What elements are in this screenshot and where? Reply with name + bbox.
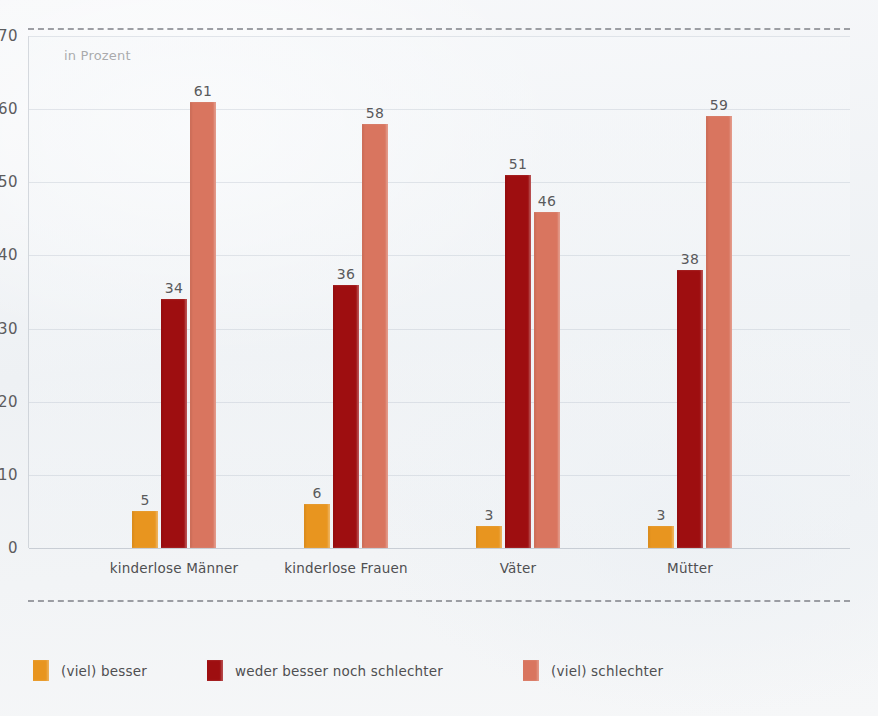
legend-item[interactable]: (viel) besser [33, 660, 147, 681]
bar-slot: 59 [706, 36, 732, 548]
bar-value-label: 5 [140, 492, 149, 508]
legend-swatch-icon [523, 660, 539, 681]
bar-value-label: 46 [538, 193, 556, 209]
legend-item[interactable]: weder besser noch schlechter [207, 660, 443, 681]
y-tick-label-30: 30 [0, 320, 18, 338]
category-label: Mütter [667, 560, 713, 576]
bar-slot: 46 [534, 36, 560, 548]
legend-swatch-icon [207, 660, 223, 681]
category-label: kinderlose Frauen [284, 560, 408, 576]
bar-value-label: 36 [337, 266, 355, 282]
bar-slot: 5 [132, 36, 158, 548]
bar-value-label: 51 [509, 156, 527, 172]
category-label: Väter [500, 560, 537, 576]
bar-group-bars: 63658 [286, 36, 406, 548]
y-tick-label-20: 20 [0, 393, 18, 411]
bar[interactable] [534, 212, 560, 548]
y-tick-label-0: 0 [8, 539, 18, 557]
bar-value-label: 38 [681, 251, 699, 267]
bar[interactable] [132, 511, 158, 548]
legend-label: (viel) schlechter [551, 663, 663, 679]
bar[interactable] [333, 285, 359, 548]
bar[interactable] [304, 504, 330, 548]
plot-area: 010203040506070 53461kinderlose Männer63… [28, 36, 850, 548]
bar-group-bars: 33859 [630, 36, 750, 548]
gridline-0 [29, 548, 850, 549]
divider-bottom [28, 600, 850, 602]
bar-value-label: 61 [194, 83, 212, 99]
bar-value-label: 3 [484, 507, 493, 523]
bar-group: 53461kinderlose Männer [114, 36, 234, 548]
category-label: kinderlose Männer [110, 560, 238, 576]
bar[interactable] [648, 526, 674, 548]
chart-legend: (viel) besserweder besser noch schlechte… [33, 660, 663, 681]
bar-slot: 38 [677, 36, 703, 548]
bar-slot: 36 [333, 36, 359, 548]
bar[interactable] [190, 102, 216, 548]
legend-label: (viel) besser [61, 663, 147, 679]
y-tick-label-70: 70 [0, 27, 18, 45]
bar-value-label: 59 [710, 97, 728, 113]
bar-group-bars: 35146 [458, 36, 578, 548]
bar-slot: 3 [476, 36, 502, 548]
y-tick-label-40: 40 [0, 246, 18, 264]
bar-value-label: 58 [366, 105, 384, 121]
legend-swatch-icon [33, 660, 49, 681]
bar[interactable] [677, 270, 703, 548]
divider-top [28, 28, 850, 30]
bar-group: 63658kinderlose Frauen [286, 36, 406, 548]
bar[interactable] [362, 124, 388, 548]
bar-slot: 6 [304, 36, 330, 548]
bar[interactable] [706, 116, 732, 548]
y-tick-label-50: 50 [0, 173, 18, 191]
bar-group-bars: 53461 [114, 36, 234, 548]
bar-slot: 51 [505, 36, 531, 548]
bar[interactable] [505, 175, 531, 548]
legend-label: weder besser noch schlechter [235, 663, 443, 679]
bar-slot: 34 [161, 36, 187, 548]
bar-value-label: 34 [165, 280, 183, 296]
bar[interactable] [476, 526, 502, 548]
chart-page: in Prozent 010203040506070 53461kinderlo… [0, 0, 878, 716]
bar-value-label: 3 [656, 507, 665, 523]
bar-group: 33859Mütter [630, 36, 750, 548]
bar-group: 35146Väter [458, 36, 578, 548]
bar-value-label: 6 [312, 485, 321, 501]
bar-slot: 3 [648, 36, 674, 548]
bar-slot: 61 [190, 36, 216, 548]
bar-slot: 58 [362, 36, 388, 548]
y-axis-line [28, 36, 29, 548]
legend-item[interactable]: (viel) schlechter [523, 660, 663, 681]
y-tick-label-10: 10 [0, 466, 18, 484]
y-tick-label-60: 60 [0, 100, 18, 118]
bar[interactable] [161, 299, 187, 548]
